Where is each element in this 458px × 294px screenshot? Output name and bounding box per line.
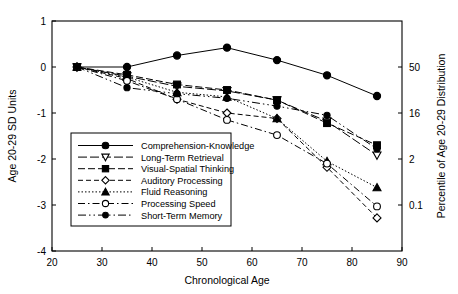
data-point-filled-circle <box>223 44 230 51</box>
legend-label: Processing Speed <box>141 199 216 209</box>
data-point-open-circle <box>224 117 231 124</box>
y2-tick-label: 0.1 <box>409 200 423 211</box>
legend-label: Visual-Spatial Thinking <box>141 164 234 174</box>
chart-container: 2030405060708090Chronological Age10-1-2-… <box>0 0 458 294</box>
x-tick-label: 80 <box>346 257 358 268</box>
data-point-open-circle <box>102 200 108 206</box>
data-point-open-triangle-down <box>373 152 381 159</box>
data-point-filled-circle-small <box>324 112 330 118</box>
legend-label: Fluid Reasoning <box>141 187 207 197</box>
legend-label: Short-Term Memory <box>141 211 223 221</box>
legend-label: Auditory Processing <box>141 176 223 186</box>
y-tick-label: 0 <box>40 62 46 73</box>
legend-label: Long-Term Retrieval <box>141 153 224 163</box>
chart-svg: 2030405060708090Chronological Age10-1-2-… <box>0 0 458 294</box>
data-point-filled-circle <box>323 72 330 79</box>
y-axis-title: Age 20-29 SD Units <box>6 90 18 183</box>
x-axis-title: Chronological Age <box>184 274 269 286</box>
legend-label: Comprehension-Knowledge <box>141 141 254 151</box>
y-tick-label: 1 <box>40 16 46 27</box>
y-tick-label: -4 <box>37 246 46 257</box>
data-point-open-circle <box>324 160 331 167</box>
y-tick-label: -2 <box>37 154 46 165</box>
data-point-filled-circle <box>102 142 109 149</box>
data-point-filled-circle-small <box>224 95 230 101</box>
data-point-filled-circle <box>373 92 380 99</box>
y2-tick-label: 16 <box>409 108 421 119</box>
y2-tick-label: 2 <box>409 154 415 165</box>
x-tick-label: 20 <box>46 257 58 268</box>
x-tick-label: 60 <box>246 257 258 268</box>
data-point-filled-triangle-up <box>373 184 381 191</box>
legend: Comprehension-KnowledgeLong-Term Retriev… <box>71 133 254 226</box>
x-tick-label: 40 <box>146 257 158 268</box>
data-point-filled-circle <box>123 63 130 70</box>
data-point-open-circle <box>274 132 281 139</box>
data-point-filled-square <box>324 120 331 127</box>
x-tick-label: 50 <box>196 257 208 268</box>
data-point-filled-circle-small <box>174 91 180 97</box>
y-tick-label: -3 <box>37 200 46 211</box>
data-point-open-diamond <box>223 109 231 117</box>
data-point-filled-circle <box>273 57 280 64</box>
data-point-filled-square <box>174 81 181 88</box>
data-point-open-circle <box>124 77 131 84</box>
y-tick-label: -1 <box>37 108 46 119</box>
data-point-filled-circle <box>173 52 180 59</box>
y2-tick-label: 50 <box>409 62 421 73</box>
data-point-open-circle <box>374 203 381 210</box>
x-tick-label: 90 <box>396 257 408 268</box>
data-point-filled-circle-small <box>124 85 130 91</box>
data-point-filled-circle-small <box>74 64 80 70</box>
x-tick-label: 30 <box>96 257 108 268</box>
x-tick-label: 70 <box>296 257 308 268</box>
data-point-filled-circle-small <box>103 212 109 218</box>
data-point-filled-circle-small <box>374 146 380 152</box>
data-point-filled-square <box>102 166 108 172</box>
data-point-filled-circle-small <box>274 103 280 109</box>
y2-axis-title: Percentile of Age 20-29 Distribution <box>435 54 447 219</box>
